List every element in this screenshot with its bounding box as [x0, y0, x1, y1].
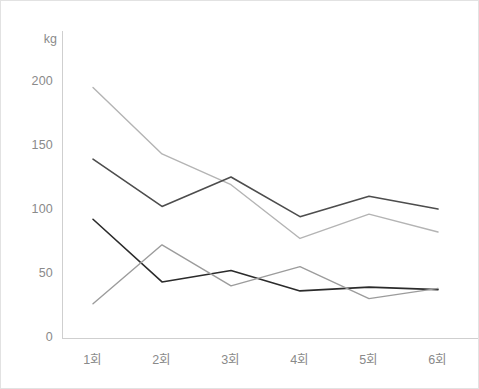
- x-tick-label: 3회: [221, 349, 240, 368]
- x-tick-label: 1회: [83, 349, 102, 368]
- y-tick-label: 50: [1, 266, 53, 280]
- y-tick-label: 0: [1, 330, 53, 344]
- x-tick-label: 6회: [428, 349, 447, 368]
- x-tick-label: 5회: [359, 349, 378, 368]
- y-tick-label: 200: [1, 74, 53, 88]
- data-line-series-4-mid-gray: [93, 245, 438, 304]
- line-chart-figure: 050100150200 1회2회3회4회5회6회 kg: [0, 0, 479, 389]
- data-line-series-3-black: [93, 219, 438, 291]
- y-axis-unit-label: kg: [44, 32, 57, 46]
- y-tick-label: 150: [1, 138, 53, 152]
- x-tick-label: 4회: [290, 349, 309, 368]
- chart-plot-area: [1, 1, 479, 389]
- data-series-group: [93, 87, 438, 303]
- y-tick-label: 100: [1, 202, 53, 216]
- data-line-series-1-light-gray: [93, 87, 438, 238]
- data-line-series-2-dark-gray: [93, 159, 438, 217]
- x-tick-label: 2회: [152, 349, 171, 368]
